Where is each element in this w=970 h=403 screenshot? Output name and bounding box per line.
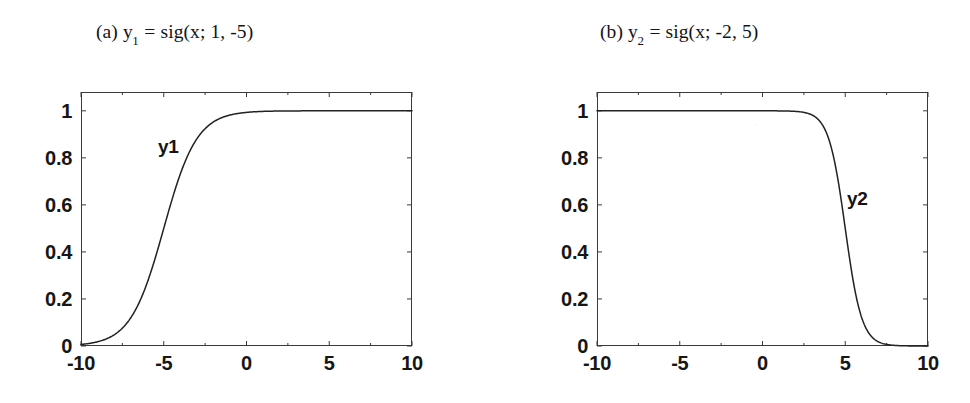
caption-b-suffix: = sig(x; -2, 5) bbox=[644, 21, 758, 42]
tick-marks-b bbox=[597, 92, 928, 346]
curve-annotation-y2: y2 bbox=[847, 188, 868, 210]
y-tick-label: 0.2 bbox=[561, 287, 588, 310]
y-tick-label: 1 bbox=[577, 99, 588, 122]
y-tick-label: 0.4 bbox=[45, 240, 72, 263]
caption-panel-b: (b) y2 = sig(x; -2, 5) bbox=[600, 21, 758, 47]
x-tick-label: 10 bbox=[917, 352, 939, 375]
y-tick-label: 0.8 bbox=[45, 146, 72, 169]
curve-y1 bbox=[81, 111, 412, 345]
caption-a-suffix: = sig(x; 1, -5) bbox=[139, 21, 253, 42]
plot-panel-a: 00.20.40.60.81 -10-50510 y1 bbox=[81, 92, 412, 346]
x-tick-label: -5 bbox=[155, 352, 172, 375]
x-tick-label: 10 bbox=[401, 352, 423, 375]
x-tick-label: -5 bbox=[671, 352, 688, 375]
curve-y2 bbox=[597, 111, 928, 346]
plot-canvas-a bbox=[81, 92, 412, 346]
caption-b-prefix: (b) y bbox=[600, 21, 638, 42]
y-tick-label: 0.4 bbox=[561, 240, 588, 263]
x-tick-label: 5 bbox=[324, 352, 335, 375]
tick-marks-a bbox=[81, 92, 412, 346]
x-tick-label: 0 bbox=[757, 352, 768, 375]
plot-panel-b: 00.20.40.60.81 -10-50510 y2 bbox=[597, 92, 928, 346]
y-tick-label: 0.8 bbox=[561, 146, 588, 169]
x-tick-label: -10 bbox=[583, 352, 611, 375]
caption-panel-a: (a) y1 = sig(x; 1, -5) bbox=[96, 21, 253, 47]
figure-container: (a) y1 = sig(x; 1, -5) (b) y2 = sig(x; -… bbox=[0, 0, 970, 403]
y-tick-label: 0.6 bbox=[561, 193, 588, 216]
caption-a-subscript: 1 bbox=[132, 33, 139, 48]
plot-canvas-b bbox=[597, 92, 928, 346]
curve-annotation-y1: y1 bbox=[158, 136, 179, 158]
x-tick-label: 0 bbox=[241, 352, 252, 375]
caption-b-subscript: 2 bbox=[637, 33, 644, 48]
caption-a-prefix: (a) y bbox=[96, 21, 133, 42]
y-tick-label: 0.2 bbox=[45, 287, 72, 310]
y-tick-label: 0.6 bbox=[45, 193, 72, 216]
x-tick-label: 5 bbox=[840, 352, 851, 375]
x-tick-label: -10 bbox=[67, 352, 95, 375]
y-tick-label: 1 bbox=[61, 99, 72, 122]
